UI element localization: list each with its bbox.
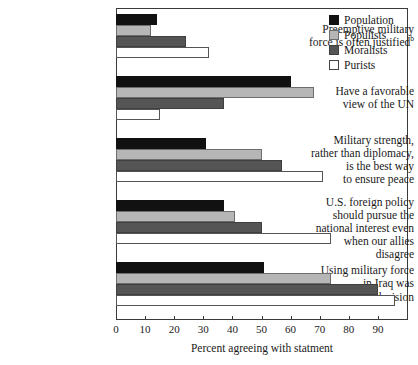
chart-legend: PopulationPopulistsMoralistsPurists <box>329 13 394 71</box>
x-tick-label: 80 <box>343 323 354 335</box>
bar-row <box>0 233 418 244</box>
bar-row <box>0 149 418 160</box>
bar-purists <box>116 233 331 244</box>
x-tick-mark <box>116 316 117 320</box>
legend-swatch-icon <box>329 60 339 70</box>
bar-moralists <box>116 284 378 295</box>
x-axis-title: Percent agreeing with statment <box>116 342 408 354</box>
bar-row <box>0 98 418 109</box>
bar-population <box>116 138 206 149</box>
bar-population <box>116 14 157 25</box>
x-tick-mark <box>203 316 204 320</box>
bar-row <box>0 284 418 295</box>
bar-row <box>0 273 418 284</box>
bar-population <box>116 200 224 211</box>
legend-swatch-icon <box>329 45 339 55</box>
legend-label: Moralists <box>344 44 387 56</box>
bar-row <box>0 109 418 120</box>
x-tick-label: 20 <box>169 323 180 335</box>
bar-purists <box>116 109 160 120</box>
bar-populists <box>116 273 331 284</box>
category-group <box>0 138 418 182</box>
bar-row <box>0 171 418 182</box>
bar-row <box>0 222 418 233</box>
category-group <box>0 262 418 306</box>
legend-label: Populists <box>344 29 386 41</box>
legend-label: Population <box>344 14 394 26</box>
x-tick-mark <box>262 316 263 320</box>
x-tick-mark <box>349 316 350 320</box>
bar-populists <box>116 149 262 160</box>
x-tick-label: 30 <box>198 323 209 335</box>
x-tick-label: 50 <box>256 323 267 335</box>
bar-populists <box>116 87 314 98</box>
legend-swatch-icon <box>329 15 339 25</box>
x-tick-mark <box>320 316 321 320</box>
x-tick-mark <box>378 316 379 320</box>
bar-moralists <box>116 98 224 109</box>
bar-row <box>0 295 418 306</box>
grouped-bar-chart: Preemptive militaryforce is often justif… <box>0 0 418 365</box>
bar-moralists <box>116 160 282 171</box>
legend-item-populists[interactable]: Populists <box>329 28 394 41</box>
bar-row <box>0 87 418 98</box>
x-axis: 0102030405060708090 <box>116 320 408 321</box>
bar-purists <box>116 171 323 182</box>
legend-swatch-icon <box>329 30 339 40</box>
category-group <box>0 200 418 244</box>
x-tick-label: 10 <box>140 323 151 335</box>
bar-row <box>0 160 418 171</box>
category-group <box>0 76 418 120</box>
bar-moralists <box>116 36 186 47</box>
legend-item-moralists[interactable]: Moralists <box>329 43 394 56</box>
x-tick-mark <box>291 316 292 320</box>
x-tick-label: 70 <box>314 323 325 335</box>
x-tick-label: 90 <box>372 323 383 335</box>
bar-purists <box>116 295 395 306</box>
bar-population <box>116 262 264 273</box>
bar-populists <box>116 211 235 222</box>
x-tick-mark <box>145 316 146 320</box>
bar-row <box>0 76 418 87</box>
x-tick-label: 60 <box>285 323 296 335</box>
bar-purists <box>116 47 209 58</box>
bar-row <box>0 138 418 149</box>
legend-item-purists[interactable]: Purists <box>329 58 394 71</box>
bar-populists <box>116 25 151 36</box>
legend-item-population[interactable]: Population <box>329 13 394 26</box>
bar-row <box>0 211 418 222</box>
bar-moralists <box>116 222 262 233</box>
bar-population <box>116 76 291 87</box>
bar-row <box>0 262 418 273</box>
x-tick-label: 40 <box>227 323 238 335</box>
bar-row <box>0 200 418 211</box>
x-tick-mark <box>174 316 175 320</box>
x-tick-label: 0 <box>113 323 119 335</box>
legend-label: Purists <box>344 59 375 71</box>
x-tick-mark <box>232 316 233 320</box>
